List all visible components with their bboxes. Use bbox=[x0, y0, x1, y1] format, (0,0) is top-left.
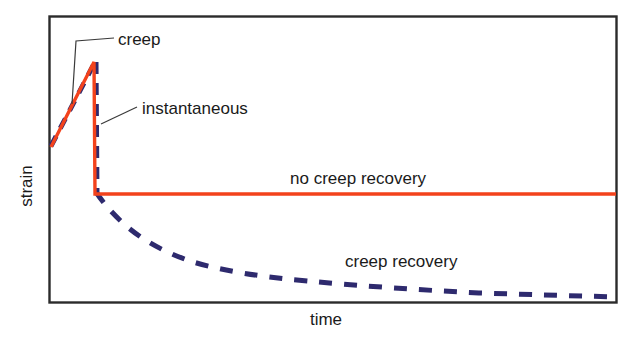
x-axis-label: time bbox=[310, 310, 342, 329]
annotation-creep: creep bbox=[118, 30, 161, 49]
y-axis-label: strain bbox=[17, 165, 36, 207]
annotation-no-creep-recovery: no creep recovery bbox=[290, 169, 427, 188]
annotation-instantaneous: instantaneous bbox=[142, 99, 248, 118]
annotation-creep-recovery: creep recovery bbox=[345, 252, 458, 271]
creep-recovery-chart: creep instantaneous no creep recovery cr… bbox=[0, 0, 635, 340]
chart-canvas: creep instantaneous no creep recovery cr… bbox=[0, 0, 635, 340]
